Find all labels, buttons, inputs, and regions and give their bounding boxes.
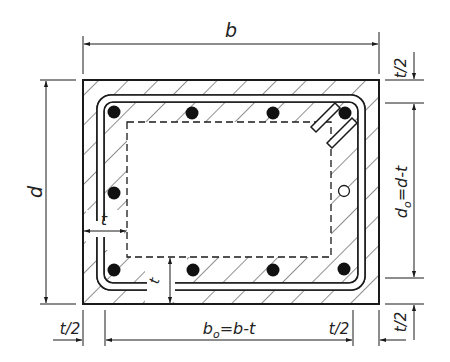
bar-top-2 [186, 107, 199, 120]
label-d: d [24, 185, 46, 198]
bar-bottom-4 [338, 263, 351, 276]
bar-bottom-1 [108, 264, 121, 277]
label-half-t-top-right: t/2 [392, 58, 410, 78]
label-half-t-bottom-mid-right: t/2 [329, 320, 349, 338]
label-reduced-depth: do=d-t [392, 165, 414, 218]
bar-bottom-2 [187, 264, 200, 277]
box-section-diagram: b d t t t/2 do=d-t t/2 t/2 bo=b [0, 0, 450, 362]
bar-top-1 [108, 106, 121, 119]
bar-left-mid [108, 187, 121, 200]
label-reduced-width: bo=b-t [203, 319, 256, 341]
bar-bottom-3 [267, 264, 280, 277]
b-symbol: b [203, 319, 213, 338]
bar-top-4 [339, 107, 352, 120]
label-half-t-bottom-right: t/2 [392, 312, 410, 332]
svg-text:do=d-t: do=d-t [392, 165, 414, 218]
bar-right-mid-hollow [339, 186, 350, 197]
b-expression: =b-t [220, 319, 256, 338]
label-half-t-bottom-left: t/2 [60, 320, 80, 338]
label-b: b [225, 19, 237, 41]
label-t-left: t [101, 210, 108, 229]
d-expression: =d-t [392, 165, 411, 201]
bar-top-3 [267, 107, 280, 120]
